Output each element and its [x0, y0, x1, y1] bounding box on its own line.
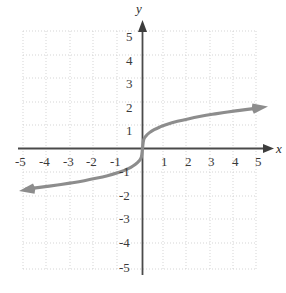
- y-tick-neg-3: -3: [119, 212, 130, 225]
- y-tick-5: 5: [126, 30, 133, 43]
- cube-root-graph-figure: y x 5 4 3 2 1 -1 -2 -3 -4 -5 -5 -4 -3 -2…: [0, 0, 286, 293]
- x-tick-3: 3: [208, 155, 215, 168]
- curve-arrow-right: [252, 103, 268, 113]
- x-tick-1: 1: [161, 155, 168, 168]
- x-tick-neg-5: -5: [15, 155, 26, 168]
- y-tick-neg-5: -5: [119, 261, 130, 274]
- plot-canvas: [0, 0, 286, 293]
- x-tick-neg-2: -2: [86, 155, 97, 168]
- y-tick-1: 1: [126, 124, 133, 137]
- curve-arrow-left: [19, 184, 35, 194]
- x-axis: [18, 144, 274, 153]
- x-tick-neg-1: -1: [110, 155, 121, 168]
- grid-lines-vertical: [23, 31, 256, 269]
- y-axis-label: y: [136, 2, 142, 15]
- x-tick-2: 2: [185, 155, 192, 168]
- y-tick-neg-2: -2: [119, 189, 130, 202]
- y-tick-neg-4: -4: [119, 236, 130, 249]
- y-tick-4: 4: [126, 54, 133, 67]
- y-tick-2: 2: [126, 101, 133, 114]
- x-axis-label: x: [276, 142, 282, 155]
- grid-lines-horizontal: [23, 31, 256, 269]
- x-tick-neg-4: -4: [39, 155, 50, 168]
- x-tick-5: 5: [255, 155, 262, 168]
- x-tick-neg-3: -3: [63, 155, 74, 168]
- x-tick-4: 4: [232, 155, 239, 168]
- y-tick-3: 3: [126, 77, 133, 90]
